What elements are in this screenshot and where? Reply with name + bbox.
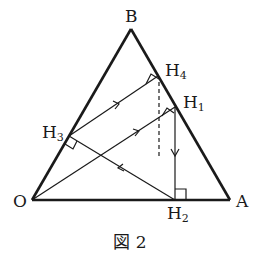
segment-O-H1 [32, 107, 175, 200]
side-BA [131, 29, 230, 200]
label-B: B [125, 8, 138, 25]
label-H3: H3 [42, 124, 64, 143]
triangle-diagram [0, 0, 260, 254]
figure-2-diagram: B H4 H1 H3 O A H2 図 2 [0, 0, 260, 254]
label-H4: H4 [165, 62, 187, 81]
label-H1: H1 [183, 94, 205, 113]
right-angle-icon-H2 [175, 189, 186, 200]
label-A: A [236, 193, 248, 210]
side-OB [32, 29, 131, 200]
label-O: O [13, 193, 27, 210]
figure-caption: 図 2 [0, 228, 260, 253]
label-H2: H2 [167, 205, 189, 224]
triangle-OAB [32, 29, 230, 200]
